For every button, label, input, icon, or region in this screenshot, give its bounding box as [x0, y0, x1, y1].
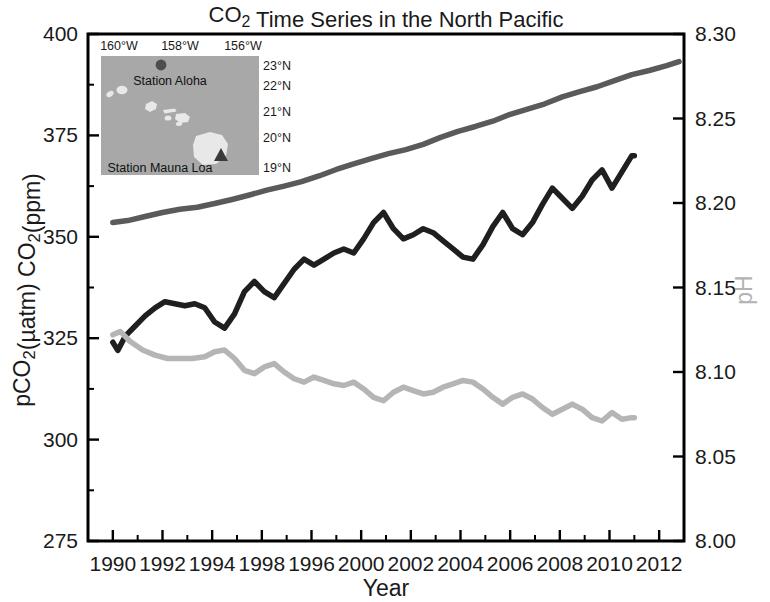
x-axis-tick-label: 2004 [437, 552, 484, 575]
station-aloha-label: Station Aloha [133, 74, 207, 88]
x-axis-tick-label: 2012 [636, 552, 683, 575]
x-axis-tick-label: 2008 [536, 552, 583, 575]
x-axis-tick-label: 2002 [387, 552, 434, 575]
chart-title: CO2 Time Series in the North Pacific [209, 2, 564, 32]
y-axis-right-tick-label: 8.25 [695, 107, 736, 130]
map-latitude-label: 23°N [263, 59, 291, 73]
x-axis-tick-label: 1990 [89, 552, 136, 575]
map-longitude-label: 158°W [161, 39, 199, 53]
map-latitude-label: 22°N [263, 79, 291, 93]
y-axis-right-title: pH [731, 275, 757, 304]
y-axis-right-tick-label: 8.30 [695, 22, 736, 45]
y-axis-left-tick-label: 275 [43, 529, 78, 552]
y-axis-left-tick-label: 400 [43, 22, 78, 45]
x-axis-tick-label: 2006 [487, 552, 534, 575]
x-axis-tick-label: 1994 [189, 552, 236, 575]
map-latitude-label: 19°N [263, 161, 291, 175]
y-axis-right-tick-label: 8.05 [695, 445, 736, 468]
y-axis-left-tick-label: 325 [43, 326, 78, 349]
y-axis-right-tick-label: 8.15 [695, 276, 736, 299]
y-axis-right-tick-label: 8.20 [695, 191, 736, 214]
x-axis-tick-label: 1996 [288, 552, 335, 575]
island-shape [117, 86, 128, 94]
x-axis-tick-label: 2010 [586, 552, 633, 575]
station-mauna-loa-label: Station Mauna Loa [108, 161, 213, 175]
island-shape [176, 122, 182, 126]
y-axis-left-tick-label: 350 [43, 225, 78, 248]
map-longitude-label: 160°W [100, 39, 138, 53]
x-axis-tick-label: 1998 [238, 552, 285, 575]
y-axis-left-tick-label: 375 [43, 123, 78, 146]
x-axis-title: Year [363, 575, 410, 601]
island-shape [165, 115, 172, 120]
co2-time-series-figure: CO2 Time Series in the North Pacific 400… [0, 0, 770, 602]
map-longitude-label: 156°W [224, 39, 262, 53]
map-latitude-label: 21°N [263, 105, 291, 119]
x-axis-tick-label: 1992 [139, 552, 186, 575]
map-latitude-label: 20°N [263, 131, 291, 145]
y-axis-left-tick-label: 300 [43, 428, 78, 451]
y-axis-right-tick-label: 8.00 [695, 529, 736, 552]
chart-canvas: CO2 Time Series in the North Pacific 400… [0, 0, 770, 602]
x-axis-tick-label: 2000 [338, 552, 385, 575]
y-axis-right-tick-label: 8.10 [695, 360, 736, 383]
map-longitude-labels: 160°W158°W156°W [100, 39, 262, 53]
station-aloha-marker [156, 60, 167, 71]
